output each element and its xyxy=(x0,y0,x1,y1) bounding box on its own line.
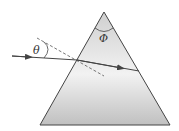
incidence-angle-label: θ xyxy=(33,44,40,57)
incidence-angle-arc xyxy=(44,42,48,58)
prism xyxy=(40,12,170,125)
incident-ray-arrow xyxy=(12,56,29,57)
apex-angle-label: Φ xyxy=(99,32,108,45)
prism-diagram: Φ θ xyxy=(0,0,179,131)
